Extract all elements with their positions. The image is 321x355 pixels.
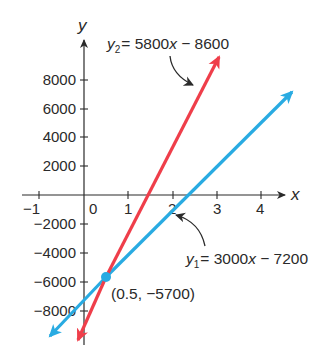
x-tick-label: 1	[124, 200, 132, 217]
y-tick-label: −6000	[34, 273, 76, 290]
line-y2-down	[78, 277, 106, 340]
y-tick-label: 6000	[43, 100, 76, 117]
svg-text:y2= 5800x − 8600: y2= 5800x − 8600	[106, 35, 229, 55]
x-tick-label: 0	[89, 200, 97, 217]
svg-text:y1= 3000x − 7200: y1= 3000x − 7200	[185, 250, 308, 270]
y-axis-label: y	[77, 16, 88, 35]
intersection-point	[101, 272, 111, 282]
line-y2-up	[106, 57, 219, 277]
y-tick-label: 4000	[43, 128, 76, 145]
intersection-label: (0.5, −5700)	[111, 285, 195, 302]
y-tick-label: −2000	[34, 215, 76, 232]
y-tick-label: 8000	[43, 71, 76, 88]
y-tick-label: 2000	[43, 157, 76, 174]
chart: x y −1 0 1 2 3 4 8000 6000 4000 2000 −20…	[0, 0, 321, 355]
y2-callout-arrow	[170, 56, 193, 85]
y1-equation-label: y1= 3000x − 7200	[176, 215, 308, 270]
y2-equation-label: y2= 5800x − 8600	[106, 35, 229, 85]
y-tick-label: −4000	[34, 244, 76, 261]
y1-callout-arrow	[176, 215, 205, 246]
x-axis-label: x	[290, 185, 300, 204]
x-tick-label: 3	[213, 200, 221, 217]
x-tick-label: 4	[256, 200, 264, 217]
